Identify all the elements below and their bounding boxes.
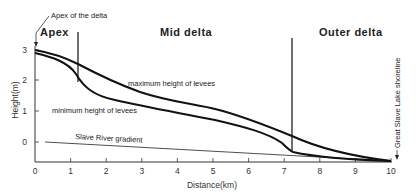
x-tick-1: 1 — [68, 166, 73, 176]
x-axis-title: Distance(km) — [187, 180, 237, 190]
x-tick-0: 0 — [33, 166, 38, 176]
x-tick-7: 7 — [282, 166, 287, 176]
apex-of-delta-label: Apex of the delta — [51, 11, 108, 20]
shoreline-arrow-icon — [395, 155, 399, 160]
max-levee-label: maximum height of levees — [128, 79, 215, 88]
shoreline-label: Great Slave Lake shoreline — [393, 58, 402, 148]
y-axis-ticks — [35, 50, 39, 142]
x-tick-6: 6 — [246, 166, 251, 176]
zone-label-apex: Apex — [40, 26, 69, 38]
y-tick-1: 1 — [22, 106, 27, 116]
x-tick-9: 9 — [353, 166, 358, 176]
zone-label-mid-delta: Mid delta — [160, 26, 213, 38]
y-axis-title: Height(m) — [10, 81, 20, 118]
zone-label-outer-delta: Outer delta — [319, 26, 383, 38]
y-tick-2: 2 — [22, 75, 27, 85]
river-gradient-label: Slave River gradient — [75, 132, 144, 145]
x-tick-5: 5 — [211, 166, 216, 176]
x-tick-2: 2 — [104, 166, 109, 176]
min-levee-label: minimum height of levees — [52, 106, 137, 115]
y-tick-3: 3 — [22, 45, 27, 55]
x-tick-8: 8 — [317, 166, 322, 176]
delta-profile-diagram: Apex Mid delta Outer delta Apex of the d… — [0, 0, 416, 196]
x-tick-3: 3 — [139, 166, 144, 176]
x-tick-10: 10 — [386, 166, 396, 176]
y-tick-0: 0 — [22, 137, 27, 147]
x-tick-4: 4 — [175, 166, 180, 176]
